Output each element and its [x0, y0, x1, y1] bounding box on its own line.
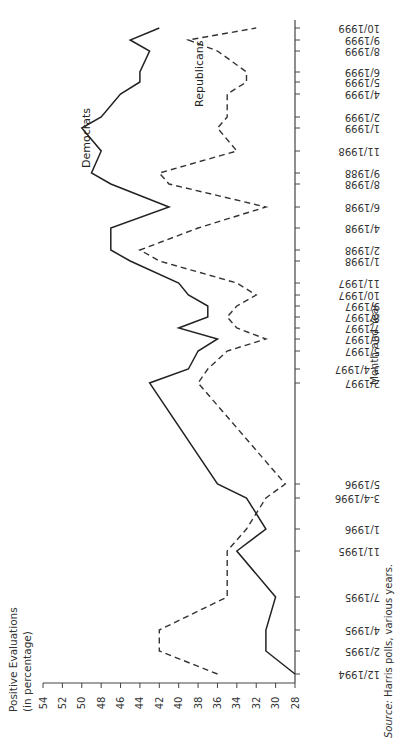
source-prefix: Source:: [383, 700, 394, 738]
source-text: Harris polls, various years.: [383, 564, 394, 700]
category-tick-label: 2/1999: [345, 112, 380, 123]
y-axis-title-line1: Positive Evaluations: [7, 607, 19, 712]
category-tick-label: 10/1997: [338, 290, 380, 301]
y-axis-title-line2: (in percentage): [21, 631, 33, 712]
value-tick-label: 46: [115, 697, 126, 710]
category-tick-label: 10/1999: [338, 23, 380, 34]
category-tick-label: 8/1999: [345, 46, 380, 57]
y-axis-title: Positive Evaluations (in percentage): [7, 607, 33, 712]
value-tick-label: 42: [154, 697, 165, 710]
category-tick-label: 11/1995: [338, 546, 380, 557]
category-tick-label: 1/1996: [345, 524, 380, 535]
category-tick-label: 4/1998: [345, 223, 380, 234]
category-tick-label: 11/1997: [338, 278, 380, 289]
category-tick-label: 4/1995: [345, 625, 380, 636]
republicans-label: Republicans: [193, 40, 206, 107]
category-tick-label: 4/1999: [345, 89, 380, 100]
category-tick-label: 9/1988: [345, 168, 380, 179]
category-tick-label: 12/1994: [338, 669, 380, 680]
line-chart: Positive Evaluations (in percentage) 545…: [0, 0, 397, 742]
category-tick-label: 8/1998: [345, 179, 380, 190]
value-tick-label: 50: [76, 697, 87, 710]
source-note: Source: Harris polls, various years.: [383, 564, 394, 738]
value-tick-label: 34: [231, 697, 242, 710]
category-tick-label: 11/1998: [338, 146, 380, 157]
value-tick-label: 36: [212, 697, 223, 710]
value-tick-label: 30: [270, 697, 281, 710]
value-tick-label: 54: [38, 697, 49, 710]
value-tick-label: 38: [193, 697, 204, 710]
republicans-line: [140, 28, 285, 674]
category-tick-label: 2/1995: [345, 646, 380, 657]
value-tick-label: 52: [57, 697, 68, 710]
value-tick-label: 32: [251, 697, 262, 710]
category-tick-label: 1/1998: [345, 256, 380, 267]
category-tick-label: 6/1998: [345, 202, 380, 213]
category-tick-label: 6/1999: [345, 67, 380, 78]
value-tick-label: 28: [290, 697, 301, 710]
democrats-line: [82, 28, 295, 674]
category-tick-label: 7/1995: [345, 592, 380, 603]
category-tick-label: 3-4/1996: [335, 493, 380, 504]
x-axis-title: Month and Year: [368, 303, 380, 385]
category-tick-label: 5/1996: [345, 479, 380, 490]
category-tick-label: 1/1999: [345, 123, 380, 134]
value-tick-label: 44: [134, 697, 145, 710]
democrats-label: Democrats: [80, 108, 93, 168]
value-tick-label: 40: [173, 697, 184, 710]
value-axis: 5452504846444240383634323028: [38, 683, 301, 709]
category-tick-label: 9/1999: [345, 35, 380, 46]
value-tick-label: 48: [96, 697, 107, 710]
category-tick-label: 2/1998: [345, 245, 380, 256]
